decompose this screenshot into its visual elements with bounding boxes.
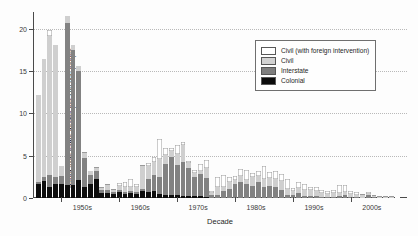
bar-segment-interstate bbox=[76, 71, 81, 180]
bar-segment-interstate bbox=[238, 182, 243, 198]
bar-segment-civil bbox=[291, 191, 296, 195]
bar-segment-civil bbox=[360, 195, 365, 197]
bar-segment-colonial bbox=[36, 184, 41, 198]
bar-segment-interstate bbox=[71, 50, 76, 185]
bar-segment-civil bbox=[181, 145, 186, 162]
bar-segment-civilforeign bbox=[117, 183, 122, 186]
bar-segment-civil bbox=[383, 197, 388, 198]
bar-segment-civil bbox=[325, 194, 330, 197]
bar-segment-civil bbox=[36, 95, 41, 182]
bar-segment-civil bbox=[117, 186, 122, 189]
bar-segment-colonial bbox=[71, 185, 76, 198]
bar-segment-civilforeign bbox=[99, 187, 104, 188]
bar-segment-civil bbox=[302, 190, 307, 197]
legend-item-colonial: Colonial bbox=[261, 76, 369, 85]
bar-segment-interstate bbox=[105, 190, 110, 193]
bar-segment-colonial bbox=[94, 179, 99, 198]
bar-segment-civil bbox=[169, 151, 174, 157]
bar-segment-civilforeign bbox=[337, 185, 342, 193]
x-tick bbox=[235, 197, 236, 202]
bar-segment-civil bbox=[186, 163, 191, 167]
bar-segment-interstate bbox=[319, 197, 324, 198]
bar-segment-interstate bbox=[157, 177, 162, 194]
bar-segment-civil bbox=[233, 180, 238, 184]
bar-segment-colonial bbox=[99, 193, 104, 198]
bar-segment-interstate bbox=[209, 195, 214, 198]
bar-segment-colonial bbox=[134, 194, 139, 198]
bar-segment-interstate bbox=[244, 184, 249, 198]
bar-segment-interstate bbox=[262, 187, 267, 198]
bar-segment-colonial bbox=[47, 187, 52, 198]
bar-segment-civil bbox=[262, 179, 267, 187]
bar-segment-interstate bbox=[99, 190, 104, 193]
bar-segment-civilforeign bbox=[291, 188, 296, 191]
bar-segment-interstate bbox=[128, 191, 133, 193]
gridline bbox=[34, 156, 407, 157]
gridline bbox=[34, 113, 407, 114]
bar-segment-civilforeign bbox=[128, 179, 133, 187]
bar-segment-colonial bbox=[140, 191, 145, 198]
y-tick bbox=[29, 71, 33, 72]
bar-segment-civil bbox=[163, 155, 168, 164]
bar-segment-interstate bbox=[343, 195, 348, 198]
bar-segment-civil bbox=[192, 173, 197, 177]
bar-segment-colonial bbox=[181, 196, 186, 198]
bar-segment-civil bbox=[250, 177, 255, 185]
bar-segment-civil bbox=[94, 168, 99, 171]
bar-segment-interstate bbox=[215, 195, 220, 198]
bar-segment-interstate bbox=[82, 158, 87, 187]
bar-segment-interstate bbox=[186, 168, 191, 197]
x-tick-label: 1970s bbox=[189, 204, 208, 211]
bar-segment-civilforeign bbox=[250, 173, 255, 177]
bar-segment-civilforeign bbox=[192, 170, 197, 173]
bar-segment-interstate bbox=[65, 23, 70, 185]
x-tick bbox=[351, 197, 352, 202]
bar-segment-interstate bbox=[181, 162, 186, 196]
bar-segment-colonial bbox=[53, 184, 58, 198]
legend-swatch-interstate-icon bbox=[261, 67, 276, 75]
bar-segment-interstate bbox=[279, 190, 284, 198]
bar-segment-civil bbox=[372, 196, 377, 197]
bar-segment-civilforeign bbox=[111, 189, 116, 190]
bar-segment-civil bbox=[146, 166, 151, 179]
bar-segment-civil bbox=[366, 194, 371, 196]
bar-segment-interstate bbox=[169, 157, 174, 196]
bar-segment-interstate bbox=[42, 177, 47, 181]
y-tick-label: 0 bbox=[23, 195, 27, 202]
bar-segment-colonial bbox=[204, 197, 209, 198]
bar-segment-civilforeign bbox=[354, 192, 359, 195]
bar-segment-civil bbox=[215, 187, 220, 195]
bar-segment-civil bbox=[209, 193, 214, 195]
bar-segment-interstate bbox=[273, 187, 278, 198]
legend-label-colonial: Colonial bbox=[281, 77, 305, 84]
bar-segment-civilforeign bbox=[163, 148, 168, 155]
bar-segment-civilforeign bbox=[123, 182, 128, 187]
bar-segment-civilforeign bbox=[377, 196, 382, 197]
bar-segment-interstate bbox=[267, 186, 272, 198]
bar-segment-interstate bbox=[354, 197, 359, 198]
bar-segment-civilforeign bbox=[198, 164, 203, 171]
bar-segment-civilforeign bbox=[233, 176, 238, 179]
bar-segment-civil bbox=[59, 166, 64, 176]
bar-segment-colonial bbox=[163, 195, 168, 198]
bar-segment-civil bbox=[65, 16, 70, 23]
bar-segment-interstate bbox=[47, 175, 52, 187]
bar-segment-civil bbox=[105, 185, 110, 190]
bar-segment-colonial bbox=[76, 180, 81, 198]
bar-segment-civil bbox=[53, 45, 58, 177]
bar-segment-civil bbox=[198, 171, 203, 174]
bar-segment-civil bbox=[88, 171, 93, 175]
bar-segment-civilforeign bbox=[325, 191, 330, 194]
bar-segment-civil bbox=[343, 192, 348, 195]
bar-segment-civil bbox=[319, 193, 324, 197]
bar-segment-interstate bbox=[250, 186, 255, 198]
bar-segment-civilforeign bbox=[267, 172, 272, 178]
bar-segment-interstate bbox=[140, 189, 145, 191]
bar-segment-interstate bbox=[117, 190, 122, 193]
bar-segment-civilforeign bbox=[82, 152, 87, 153]
bar-segment-civilforeign bbox=[204, 160, 209, 168]
gridline bbox=[34, 29, 407, 30]
legend-item-civil-foreign: Civil (with foreign intervention) bbox=[261, 46, 369, 55]
bar-segment-colonial bbox=[59, 184, 64, 198]
legend-swatch-civil-icon bbox=[261, 57, 276, 65]
